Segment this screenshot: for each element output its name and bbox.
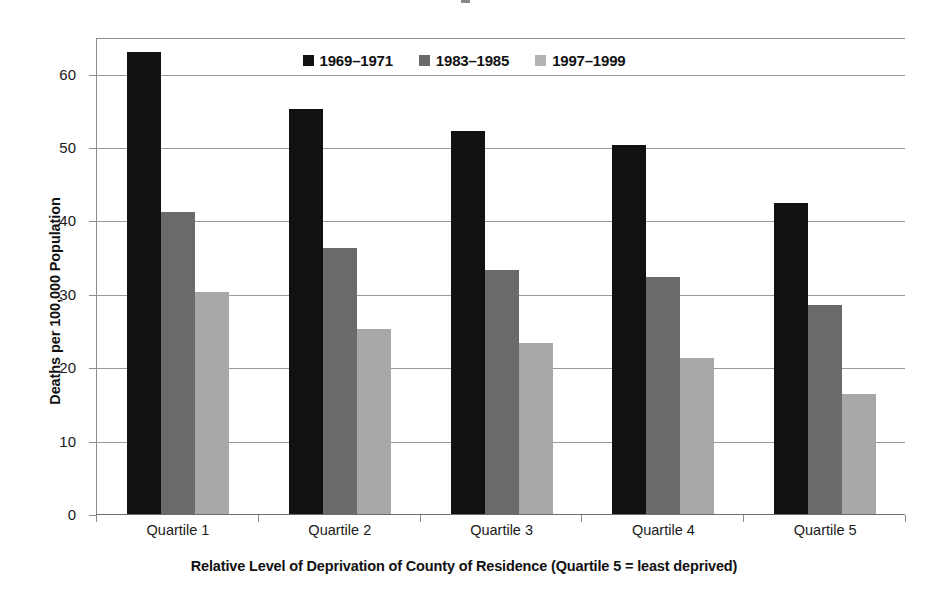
x-tick-mark — [581, 515, 582, 522]
bar-quartile-3-1983-1985 — [485, 270, 519, 514]
legend-swatch-icon — [419, 55, 430, 66]
bar-quartile-2-1969-1971 — [289, 109, 323, 514]
bar-quartile-5-1983-1985 — [808, 305, 842, 514]
x-category-label-4: Quartile 4 — [603, 522, 723, 538]
y-tick-mark — [89, 221, 96, 222]
bar-quartile-4-1969-1971 — [612, 145, 646, 514]
bar-quartile-3-1997-1999 — [519, 343, 553, 514]
bar-quartile-5-1969-1971 — [774, 203, 808, 514]
legend-label: 1983–1985 — [436, 52, 509, 69]
y-tick-label: 30 — [22, 286, 76, 303]
plot-area — [96, 38, 905, 515]
bar-quartile-4-1983-1985 — [646, 277, 680, 514]
bar-quartile-1-1969-1971 — [127, 52, 161, 514]
x-tick-mark — [96, 515, 97, 522]
x-category-label-3: Quartile 3 — [442, 522, 562, 538]
x-axis-line — [96, 514, 905, 515]
bar-chart-figure: Deaths per 100,000 Population 0102030405… — [0, 0, 928, 598]
bar-quartile-1-1983-1985 — [161, 212, 195, 514]
y-tick-label: 10 — [22, 433, 76, 450]
y-tick-mark — [89, 295, 96, 296]
legend-swatch-icon — [535, 55, 546, 66]
gridline — [96, 148, 905, 149]
bar-quartile-5-1997-1999 — [842, 394, 876, 514]
y-tick-label: 20 — [22, 359, 76, 376]
legend-swatch-icon — [303, 55, 314, 66]
x-category-label-2: Quartile 2 — [280, 522, 400, 538]
legend-label: 1969–1971 — [320, 52, 393, 69]
plot-border-top — [96, 38, 905, 39]
x-tick-mark — [905, 515, 906, 522]
x-axis-title: Relative Level of Deprivation of County … — [0, 558, 928, 574]
bar-quartile-2-1983-1985 — [323, 248, 357, 514]
x-tick-mark — [258, 515, 259, 522]
y-tick-mark — [89, 75, 96, 76]
legend-entry-1997-1999: 1997–1999 — [535, 52, 625, 69]
x-tick-mark — [420, 515, 421, 522]
y-tick-mark — [89, 442, 96, 443]
y-tick-label: 0 — [22, 506, 76, 523]
legend-entry-1983-1985: 1983–1985 — [419, 52, 509, 69]
bar-quartile-1-1997-1999 — [195, 292, 229, 514]
cropped-title-remnant — [461, 0, 470, 3]
chart-legend: 1969–19711983–19851997–1999 — [0, 52, 928, 69]
bar-quartile-4-1997-1999 — [680, 358, 714, 514]
y-axis-line — [96, 38, 97, 515]
y-tick-mark — [89, 148, 96, 149]
legend-label: 1997–1999 — [552, 52, 625, 69]
y-tick-label: 40 — [22, 212, 76, 229]
y-tick-label: 50 — [22, 139, 76, 156]
x-category-label-1: Quartile 1 — [118, 522, 238, 538]
gridline — [96, 75, 905, 76]
bar-quartile-3-1969-1971 — [451, 131, 485, 514]
bar-quartile-2-1997-1999 — [357, 329, 391, 514]
y-tick-mark — [89, 368, 96, 369]
x-tick-mark — [743, 515, 744, 522]
x-category-label-5: Quartile 5 — [765, 522, 885, 538]
legend-entry-1969-1971: 1969–1971 — [303, 52, 393, 69]
y-tick-mark — [89, 515, 96, 516]
